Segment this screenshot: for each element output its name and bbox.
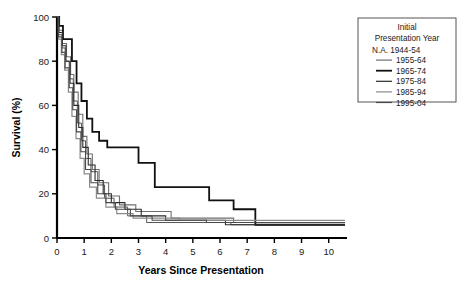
legend-label-5: 1985-94 xyxy=(396,88,426,97)
x-tick-label: 2 xyxy=(109,246,114,257)
y-tick-label: 60 xyxy=(38,100,49,111)
y-tick-label: 20 xyxy=(38,188,49,199)
plot-area: 020406080100012345678910Years Since Pres… xyxy=(10,12,456,276)
x-tick-label: 5 xyxy=(190,246,195,257)
y-tick-label: 100 xyxy=(33,12,49,23)
legend-label-2: 1955-64 xyxy=(396,56,426,65)
legend-label-3: 1965-74 xyxy=(396,67,426,76)
y-tick-label: 80 xyxy=(38,56,49,67)
legend-label-4: 1975-84 xyxy=(396,77,426,86)
x-tick-label: 3 xyxy=(136,246,141,257)
x-tick-label: 6 xyxy=(217,246,222,257)
x-tick-label: 0 xyxy=(54,246,59,257)
x-tick-label: 7 xyxy=(245,246,250,257)
survival-curve-6 xyxy=(57,17,345,223)
y-tick-label: 40 xyxy=(38,144,49,155)
y-axis-title: Survival (%) xyxy=(10,97,22,157)
survival-curve-2 xyxy=(57,17,345,223)
legend-label-6: 1995-04 xyxy=(396,99,426,108)
x-tick-label: 9 xyxy=(299,246,304,257)
legend-title-line-1: Initial xyxy=(397,23,416,32)
survival-curve-figure: 020406080100012345678910Years Since Pres… xyxy=(0,0,464,283)
survival-curve-5 xyxy=(57,17,345,220)
legend-label-1: N.A. 1944-54 xyxy=(372,46,421,55)
x-axis-title: Years Since Presentation xyxy=(138,264,263,276)
x-tick-label: 10 xyxy=(323,246,334,257)
legend-title-line-2: Presentation Year xyxy=(375,34,440,43)
x-tick-label: 1 xyxy=(82,246,87,257)
x-tick-label: 4 xyxy=(163,246,168,257)
y-tick-label: 0 xyxy=(44,233,49,244)
x-tick-label: 8 xyxy=(272,246,277,257)
